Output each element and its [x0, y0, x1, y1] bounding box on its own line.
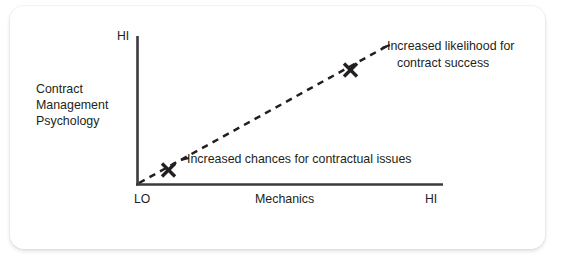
- annotation-contract-success-line-2: contract success: [387, 55, 537, 72]
- x-axis-title: Mechanics: [255, 192, 314, 208]
- y-axis-hi-label: HI: [117, 29, 129, 45]
- diagram-canvas: Contract Management Psychology HI LO HI …: [0, 0, 567, 263]
- annotation-contractual-issues: Increased chances for contractual issues: [187, 152, 412, 168]
- x-axis-hi-label: HI: [425, 192, 437, 208]
- x-axis-lo-label: LO: [134, 192, 150, 208]
- y-axis-title-line-2: Management: [36, 97, 132, 113]
- y-axis-title-line-3: Psychology: [36, 113, 132, 129]
- annotation-contract-success-line-1: Increased likelihood for: [387, 38, 537, 55]
- annotation-contract-success: Increased likelihood for contract succes…: [387, 38, 537, 71]
- y-axis-title: Contract Management Psychology: [36, 81, 132, 129]
- y-axis-title-line-1: Contract: [36, 81, 132, 97]
